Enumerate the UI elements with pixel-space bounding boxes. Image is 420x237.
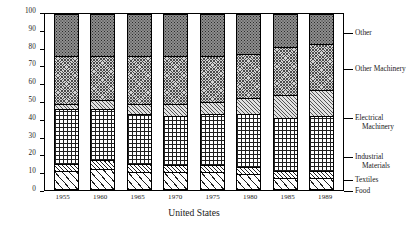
bar-segment bbox=[91, 100, 114, 109]
bar-column bbox=[121, 14, 158, 190]
bar-column bbox=[158, 14, 195, 190]
bar-segment bbox=[274, 47, 297, 95]
x-axis-tick-label: 1980 bbox=[232, 193, 270, 207]
legend-leader-line bbox=[344, 69, 353, 70]
bar-segment bbox=[164, 116, 187, 165]
stacked-bar bbox=[90, 14, 115, 190]
x-axis-tick-label: 1965 bbox=[119, 193, 157, 207]
bar-segment bbox=[91, 14, 114, 56]
legend-leader-line bbox=[344, 118, 353, 119]
y-axis-tick-label: 30 bbox=[29, 132, 36, 140]
x-axis-tick-label: 1960 bbox=[82, 193, 120, 207]
legend-label: ElectricalMachinery bbox=[353, 113, 394, 131]
x-axis-tick-label: 1970 bbox=[157, 193, 195, 207]
bar-segment bbox=[274, 14, 297, 47]
bar-segment bbox=[237, 54, 260, 98]
bar-segment bbox=[55, 164, 78, 171]
x-axis-tick-label: 1985 bbox=[269, 193, 307, 207]
x-axis-tick-label: 1989 bbox=[307, 193, 345, 207]
bar-segment bbox=[201, 102, 224, 114]
bar-segment bbox=[55, 109, 78, 164]
bar-segment bbox=[201, 165, 224, 172]
stacked-bar bbox=[309, 14, 334, 190]
bar-segment bbox=[91, 160, 114, 169]
bar-segment bbox=[55, 14, 78, 56]
legend-item: Other bbox=[344, 28, 372, 37]
bar-segment bbox=[201, 56, 224, 102]
x-axis-tick-labels: 19551960196519701975198019851989 bbox=[44, 193, 344, 207]
y-axis-tick-mark bbox=[40, 191, 44, 192]
stacked-bar bbox=[200, 14, 225, 190]
y-axis-tick-label: 60 bbox=[29, 78, 36, 86]
bar-column bbox=[194, 14, 231, 190]
legend-item: Other Machinery bbox=[344, 64, 406, 73]
bar-segment bbox=[310, 44, 333, 90]
bar-segment bbox=[55, 171, 78, 190]
bar-segment bbox=[91, 109, 114, 160]
y-axis: 0102030405060708090100 bbox=[0, 0, 44, 191]
bar-segment bbox=[310, 90, 333, 116]
bar-segment bbox=[91, 169, 114, 190]
bar-segment bbox=[91, 56, 114, 100]
legend-item: Food bbox=[344, 186, 370, 195]
legend: OtherOther MachineryElectricalMachineryI… bbox=[344, 0, 420, 237]
y-axis-tick-label: 100 bbox=[25, 7, 36, 15]
y-axis-tick-label: 70 bbox=[29, 60, 36, 68]
stacked-bar bbox=[163, 14, 188, 190]
bar-column bbox=[267, 14, 304, 190]
stacked-bar bbox=[54, 14, 79, 190]
bar-segment bbox=[274, 118, 297, 171]
legend-item: ElectricalMachinery bbox=[344, 113, 394, 131]
legend-label: IndustrialMaterials bbox=[353, 152, 390, 170]
bar-segment bbox=[237, 174, 260, 190]
bar-segment bbox=[55, 56, 78, 104]
bar-segment bbox=[274, 95, 297, 118]
y-axis-tick-label: 40 bbox=[29, 114, 36, 122]
bar-column bbox=[231, 14, 268, 190]
x-axis-tick-label: 1975 bbox=[194, 193, 232, 207]
legend-leader-line bbox=[344, 180, 353, 181]
x-axis-tick-label: 1955 bbox=[44, 193, 82, 207]
y-axis-tick-label: 10 bbox=[29, 167, 36, 175]
legend-label: Other bbox=[353, 28, 372, 37]
plot-area bbox=[44, 13, 344, 191]
bar-segment bbox=[237, 98, 260, 114]
bar-segment bbox=[201, 14, 224, 56]
bar-segment bbox=[310, 116, 333, 171]
bar-segment bbox=[128, 164, 151, 173]
bar-segment bbox=[310, 178, 333, 190]
bar-segment bbox=[237, 167, 260, 174]
stacked-bar bbox=[273, 14, 298, 190]
bar-segment bbox=[274, 178, 297, 190]
stacked-bar bbox=[236, 14, 261, 190]
bar-segment bbox=[128, 172, 151, 190]
legend-label: Other Machinery bbox=[353, 64, 406, 73]
y-axis-tick-label: 50 bbox=[29, 96, 36, 104]
y-axis-tick-label: 80 bbox=[29, 43, 36, 51]
bar-segment bbox=[164, 56, 187, 104]
bar-segment bbox=[237, 14, 260, 54]
bar-segment bbox=[128, 104, 151, 115]
bar-segment bbox=[237, 114, 260, 167]
legend-leader-line bbox=[344, 157, 353, 158]
bar-column bbox=[304, 14, 341, 190]
legend-label: Food bbox=[353, 186, 370, 195]
y-axis-tick-label: 0 bbox=[32, 185, 36, 193]
legend-item: Textiles bbox=[344, 175, 378, 184]
bar-column bbox=[48, 14, 85, 190]
bar-segment bbox=[128, 114, 151, 163]
legend-label-line2: Machinery bbox=[355, 122, 394, 131]
stacked-bar-chart: 0102030405060708090100 19551960196519701… bbox=[0, 0, 420, 237]
bar-column bbox=[85, 14, 122, 190]
bar-segment bbox=[201, 172, 224, 190]
bar-segment bbox=[128, 14, 151, 56]
bar-segment bbox=[274, 171, 297, 178]
legend-leader-line bbox=[344, 33, 353, 34]
legend-leader-line bbox=[344, 191, 353, 192]
bar-segment bbox=[164, 104, 187, 116]
legend-label-line2: Materials bbox=[355, 161, 390, 170]
x-axis-title: United States bbox=[44, 207, 344, 218]
legend-label: Textiles bbox=[353, 175, 378, 184]
legend-item: IndustrialMaterials bbox=[344, 152, 390, 170]
bar-segment bbox=[201, 114, 224, 165]
